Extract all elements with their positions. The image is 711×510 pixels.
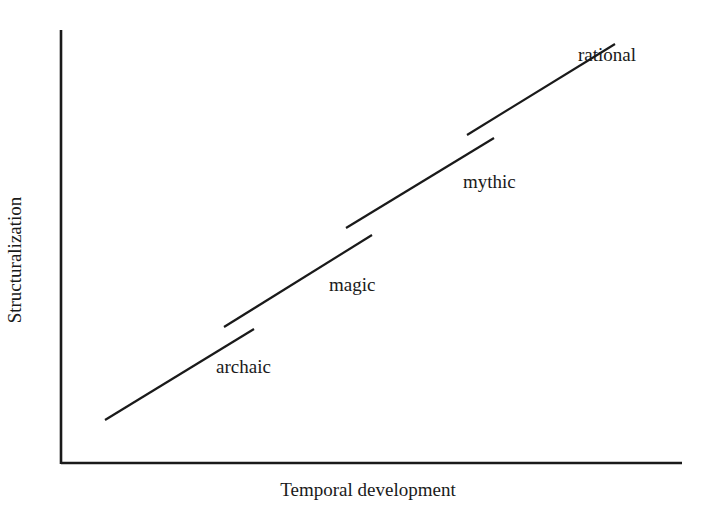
stage-label-rational: rational — [578, 44, 636, 65]
x-axis-label: Temporal development — [280, 479, 456, 500]
stage-segments: archaic magic mythic rational — [105, 44, 636, 420]
stage-label-mythic: mythic — [463, 171, 516, 192]
stage-label-archaic: archaic — [216, 356, 271, 377]
y-axis-label: Structuralization — [4, 196, 25, 323]
stage-label-magic: magic — [329, 274, 375, 295]
structuralization-diagram: Structuralization Temporal development a… — [0, 0, 711, 510]
